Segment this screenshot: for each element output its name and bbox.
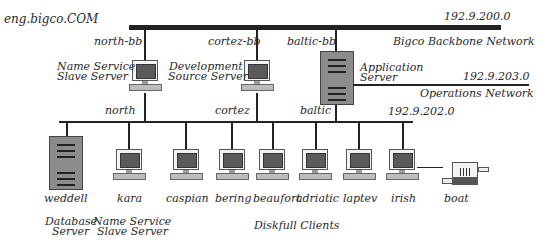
local-address: 192.9.202.0 — [388, 106, 454, 117]
baltic-role-line2: Server — [360, 73, 397, 83]
weddell-drop — [66, 122, 68, 136]
cortez-lan-drop — [256, 93, 258, 122]
caspian-workstation-icon — [170, 149, 203, 182]
clients-group-label: Diskfull Clients — [254, 220, 339, 231]
backbone-network-line-right — [231, 25, 501, 30]
host-label-irish: irish — [391, 193, 416, 204]
baltic-server-tower-icon — [320, 51, 354, 105]
north-bb-drop — [144, 29, 146, 61]
cortez-role-line2: Source Server — [168, 72, 248, 82]
weddell-server-tower-icon — [49, 136, 83, 190]
operations-network-line — [353, 84, 529, 86]
beaufort-drop — [272, 122, 274, 149]
north-role-line2: Slave Server — [57, 72, 128, 82]
laptev-workstation-icon — [343, 149, 376, 182]
kara-drop-2 — [128, 134, 130, 149]
host-label-adriatic: adriatic — [296, 193, 339, 204]
database-role-line2: Server — [52, 227, 89, 237]
domain-title: eng.bigco.COM — [4, 14, 98, 25]
irish-boat-cable — [417, 167, 443, 168]
north-bb-label: north-bb — [94, 36, 142, 47]
irish-workstation-icon — [386, 149, 419, 182]
caspian-drop — [185, 122, 187, 149]
baltic-lan-drop — [335, 105, 337, 122]
north-lan-drop — [144, 93, 146, 122]
baltic-bb-label: baltic-bb — [287, 36, 336, 47]
kara-role-line2: Slave Server — [97, 227, 168, 237]
kara-workstation-icon — [113, 149, 146, 182]
host-label-laptev: laptev — [343, 193, 377, 204]
backbone-network-name: Bigco Backbone Network — [393, 36, 535, 47]
host-label-beaufort: beaufort — [253, 193, 301, 204]
backbone-address: 192.9.200.0 — [444, 11, 510, 22]
bering-drop — [231, 122, 233, 149]
irish-drop — [402, 122, 404, 149]
boat-modem-icon — [442, 162, 488, 186]
bering-workstation-icon — [216, 149, 249, 182]
adriatic-workstation-icon — [299, 149, 332, 182]
adriatic-drop — [315, 122, 317, 149]
host-label-kara: kara — [117, 193, 142, 204]
cortez-bb-label: cortez-bb — [208, 36, 261, 47]
baltic-lan-label: baltic — [300, 105, 331, 116]
operations-address: 192.9.203.0 — [463, 71, 529, 82]
host-label-caspian: caspian — [166, 193, 209, 204]
host-label-bering: bering — [215, 193, 251, 204]
operations-network-name: Operations Network — [420, 88, 534, 99]
beaufort-workstation-icon — [256, 149, 289, 182]
north-lan-label: north — [105, 105, 135, 116]
laptev-drop — [358, 122, 360, 149]
host-label-boat: boat — [444, 193, 469, 204]
host-label-weddell: weddell — [44, 193, 88, 204]
cortez-lan-label: cortez — [215, 105, 250, 116]
